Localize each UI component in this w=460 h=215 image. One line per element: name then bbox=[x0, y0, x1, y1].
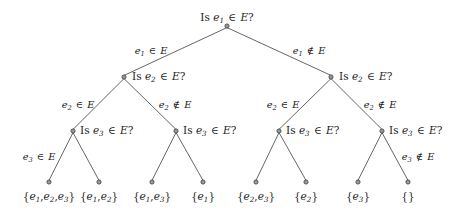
leaf-node-dot[interactable] bbox=[304, 180, 308, 184]
decision-node-label: Is e3 ∈ E? bbox=[389, 125, 442, 136]
edge-condition-label: e2 ∈ E bbox=[267, 100, 300, 110]
tree-edge bbox=[358, 133, 382, 181]
leaf-set-label: {} bbox=[401, 191, 414, 202]
leaf-node-dot[interactable] bbox=[201, 180, 205, 184]
decision-node-label: Is e3 ∈ E? bbox=[183, 125, 236, 136]
leaf-node-dot[interactable] bbox=[150, 180, 154, 184]
leaf-set-label: {e1,e2,e3} bbox=[23, 191, 75, 202]
leaf-set-label: {e3} bbox=[346, 191, 370, 202]
edge-condition-label: e1 ∈ E bbox=[135, 46, 168, 56]
decision-node-dot[interactable] bbox=[71, 129, 75, 133]
decision-node-dot[interactable] bbox=[277, 129, 281, 133]
leaf-node-dot[interactable] bbox=[97, 180, 101, 184]
leaf-set-label: {e1,e3} bbox=[133, 191, 171, 202]
decision-node-label: Is e1 ∈ E? bbox=[200, 12, 253, 23]
leaf-node-dot[interactable] bbox=[254, 180, 258, 184]
decision-node-dot[interactable] bbox=[225, 24, 229, 28]
leaf-node-dot[interactable] bbox=[356, 180, 360, 184]
decision-node-label: Is e3 ∈ E? bbox=[80, 125, 133, 136]
decision-node-dot[interactable] bbox=[122, 75, 126, 79]
edges-group bbox=[49, 28, 408, 181]
leaf-node-dot[interactable] bbox=[47, 180, 51, 184]
tree-edge bbox=[256, 133, 279, 181]
decision-node-dot[interactable] bbox=[380, 129, 384, 133]
leaf-set-label: {e1} bbox=[191, 191, 215, 202]
leaf-node-dot[interactable] bbox=[406, 180, 410, 184]
leaf-set-label: {e2,e3} bbox=[237, 191, 275, 202]
decision-node-dot[interactable] bbox=[174, 129, 178, 133]
leaf-set-label: {e2} bbox=[294, 191, 318, 202]
edge-condition-label: e2 ∈ E bbox=[62, 100, 95, 110]
edge-condition-label: e2 ∉ E bbox=[364, 100, 397, 110]
decision-node-dot[interactable] bbox=[329, 75, 333, 79]
tree-edge bbox=[152, 133, 176, 181]
nodes-group bbox=[47, 24, 410, 184]
tree-edge bbox=[279, 133, 306, 181]
edge-condition-label: e3 ∉ E bbox=[402, 152, 435, 162]
decision-node-label: Is e2 ∈ E? bbox=[132, 71, 185, 82]
edge-condition-label: e3 ∈ E bbox=[23, 152, 56, 162]
tree-edge bbox=[176, 133, 203, 181]
edge-condition-label: e2 ∉ E bbox=[159, 100, 192, 110]
decision-node-label: Is e2 ∈ E? bbox=[339, 71, 392, 82]
tree-edge bbox=[73, 133, 99, 181]
decision-node-label: Is e3 ∈ E? bbox=[286, 125, 339, 136]
edge-condition-label: e1 ∉ E bbox=[293, 46, 326, 56]
decision-tree-figure: Is e1 ∈ E?Is e2 ∈ E?Is e2 ∈ E?Is e3 ∈ E?… bbox=[0, 0, 460, 215]
leaf-set-label: {e1,e2} bbox=[80, 191, 118, 202]
